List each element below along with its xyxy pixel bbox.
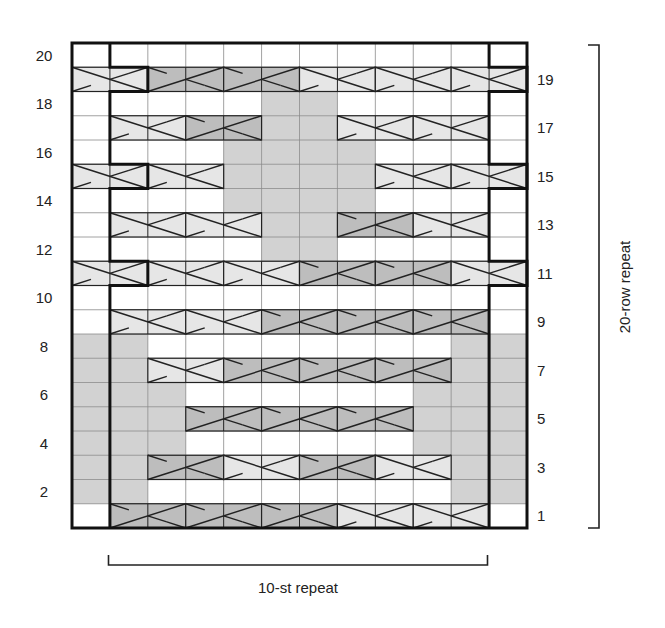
light-cable-cross xyxy=(110,310,186,334)
light-cable-cross xyxy=(337,116,413,140)
purl-cell xyxy=(451,407,489,431)
purl-cell xyxy=(413,407,451,431)
row-repeat-bracket-line xyxy=(588,45,599,528)
light-cable-cross xyxy=(148,164,224,188)
purl-cell xyxy=(300,140,338,164)
row-label-right: 9 xyxy=(537,313,545,330)
dark-cable-cross xyxy=(300,261,376,285)
purl-cell xyxy=(337,189,375,213)
purl-cell xyxy=(110,334,148,358)
dark-cable-cross xyxy=(148,455,224,479)
light-cable-cross xyxy=(110,213,186,237)
light-cable-cross xyxy=(148,358,224,382)
row-label-right: 13 xyxy=(537,216,554,233)
purl-cell xyxy=(262,140,300,164)
purl-cell xyxy=(110,480,148,504)
dark-cable-cross xyxy=(224,358,300,382)
row-repeat-bracket: 20-row repeat xyxy=(588,45,633,528)
purl-cell xyxy=(489,334,527,358)
light-cable-cross xyxy=(451,164,527,188)
dark-cable-cross xyxy=(375,261,451,285)
purl-cell xyxy=(262,189,300,213)
purl-cell xyxy=(451,455,489,479)
knitting-chart: 2468101214161820135791113151719 10-st re… xyxy=(0,0,665,628)
purl-cell xyxy=(489,431,527,455)
purl-cell xyxy=(451,383,489,407)
dark-cable-cross xyxy=(224,67,300,91)
purl-cell xyxy=(72,480,110,504)
light-cable-cross xyxy=(186,213,262,237)
row-label-left: 16 xyxy=(36,144,53,161)
row-label-left: 14 xyxy=(36,192,53,209)
purl-cell xyxy=(489,383,527,407)
dark-cable-cross xyxy=(110,504,186,528)
purl-cell xyxy=(72,407,110,431)
light-cable-cross xyxy=(375,164,451,188)
dark-cable-cross xyxy=(300,358,376,382)
light-cable-cross xyxy=(300,67,376,91)
stitch-repeat-bracket-line xyxy=(109,555,488,565)
purl-cell xyxy=(489,455,527,479)
row-label-left: 10 xyxy=(36,289,53,306)
row-label-right: 17 xyxy=(537,119,554,136)
row-label-right: 15 xyxy=(537,168,554,185)
light-cable-cross xyxy=(337,504,413,528)
row-label-left: 4 xyxy=(40,435,48,452)
purl-cell xyxy=(72,334,110,358)
light-cable-cross xyxy=(110,116,186,140)
row-label-right: 1 xyxy=(537,507,545,524)
light-cable-cross xyxy=(186,310,262,334)
row-label-left: 6 xyxy=(40,386,48,403)
row-label-left: 2 xyxy=(40,483,48,500)
light-cable-cross xyxy=(375,67,451,91)
purl-cell xyxy=(262,116,300,140)
stitch-repeat-label: 10-st repeat xyxy=(258,579,339,596)
light-cable-cross xyxy=(451,67,527,91)
purl-cell xyxy=(451,480,489,504)
purl-cell xyxy=(110,383,148,407)
purl-cell xyxy=(224,164,262,188)
purl-cell xyxy=(337,164,375,188)
dark-cable-cross xyxy=(262,407,338,431)
light-cable-cross xyxy=(72,164,148,188)
purl-cell xyxy=(262,237,300,261)
purl-cell xyxy=(224,189,262,213)
purl-cell xyxy=(110,455,148,479)
dark-cable-cross xyxy=(262,310,338,334)
row-label-left: 12 xyxy=(36,241,53,258)
purl-cell xyxy=(110,407,148,431)
dark-cable-cross xyxy=(186,504,262,528)
row-label-right: 11 xyxy=(537,265,553,282)
purl-cell xyxy=(300,116,338,140)
light-cable-cross xyxy=(148,261,224,285)
purl-cell xyxy=(72,383,110,407)
purl-cell xyxy=(451,334,489,358)
row-label-right: 5 xyxy=(537,410,545,427)
light-cable-cross xyxy=(375,455,451,479)
row-label-right: 7 xyxy=(537,362,545,379)
row-label-left: 20 xyxy=(36,47,53,64)
purl-cell xyxy=(300,189,338,213)
light-cable-cross xyxy=(413,504,489,528)
light-cable-cross xyxy=(224,261,300,285)
purl-cell xyxy=(224,140,262,164)
light-cable-cross xyxy=(413,213,489,237)
row-repeat-label: 20-row repeat xyxy=(616,240,633,333)
purl-cell xyxy=(413,383,451,407)
row-label-left: 18 xyxy=(36,95,53,112)
purl-cell xyxy=(110,358,148,382)
purl-cell xyxy=(148,431,186,455)
purl-cell xyxy=(337,140,375,164)
dark-cable-cross xyxy=(300,455,376,479)
purl-cell xyxy=(148,407,186,431)
stitch-repeat-bracket: 10-st repeat xyxy=(109,555,488,596)
row-label-right: 19 xyxy=(537,71,554,88)
purl-cell xyxy=(148,383,186,407)
light-cable-cross xyxy=(72,67,148,91)
dark-cable-cross xyxy=(337,213,413,237)
purl-cell xyxy=(413,431,451,455)
dark-cable-cross xyxy=(375,358,451,382)
dark-cable-cross xyxy=(262,504,338,528)
purl-cell xyxy=(72,358,110,382)
purl-cell xyxy=(451,431,489,455)
